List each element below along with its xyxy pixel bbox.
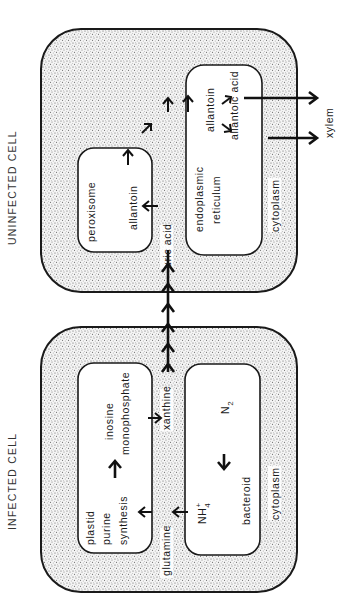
allantoin-peroxisome-label: allantoin	[127, 185, 139, 230]
er-label-line2: reticulum	[210, 176, 222, 224]
allantoin-er-label: allantoin	[204, 87, 216, 132]
bacteroid-label: bacteroid	[240, 476, 252, 525]
xanthine-label: xanthine	[160, 386, 172, 431]
peroxisome-label: peroxisome	[85, 182, 97, 242]
er-label-line1: endoplasmic	[193, 166, 205, 232]
bacteroid	[185, 364, 260, 555]
infected-cell-title: INFECTED CELL	[6, 433, 18, 530]
purine-label: purine	[100, 512, 112, 545]
xylem-label: xylem	[323, 108, 335, 138]
nitrogen-transport-diagram: UNINFECTED CELL INFECTED CELL	[0, 0, 338, 616]
allantoic-acid-label: allantoic acid	[228, 71, 240, 140]
uninfected-cell-title: UNINFECTED CELL	[6, 130, 18, 245]
synthesis-label: synthesis	[117, 496, 129, 545]
uric-acid-label: uric acid	[161, 224, 173, 269]
glutamine-label: glutamine	[160, 525, 172, 576]
inosine-label: inosine	[103, 403, 115, 440]
cytoplasm-label-infected: cytoplasm	[269, 467, 281, 520]
plastid-label: plastid	[84, 510, 96, 545]
cytoplasm-label-uninfected: cytoplasm	[269, 179, 281, 232]
monophosphate-label: monophosphate	[119, 372, 131, 455]
